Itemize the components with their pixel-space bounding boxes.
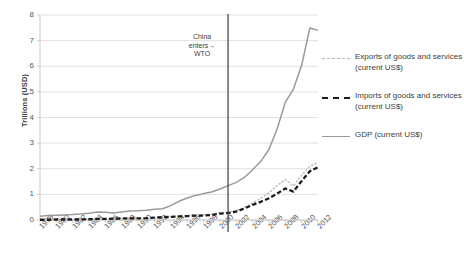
imports-dashed-swatch-line <box>322 97 350 99</box>
gdp-solid-swatch <box>322 131 350 143</box>
wto-annotation-line3: WTO <box>180 50 224 59</box>
legend-label-line1: Exports of goods and services <box>355 52 462 61</box>
wto-annotation: Chinaenters→WTO <box>180 33 224 59</box>
chart-container: Trillions (USD) 012345678 19781980198219… <box>0 0 468 259</box>
legend-label-line1: GDP (current US$) <box>355 130 422 139</box>
gdp-solid-swatch-line <box>322 136 350 137</box>
imports-dashed-swatch <box>322 92 350 104</box>
legend-item[interactable]: Exports of goods and services(current US… <box>322 52 468 73</box>
legend-item[interactable]: Imports of goods and services(current US… <box>322 91 468 112</box>
series-line-dotted <box>40 162 318 219</box>
legend-item-label: GDP (current US$) <box>355 130 422 141</box>
legend-item[interactable]: GDP (current US$) <box>322 130 468 143</box>
chart-legend: Exports of goods and services(current US… <box>322 52 468 161</box>
exports-dotted-swatch-line <box>322 58 350 59</box>
series-line-solid <box>40 28 318 216</box>
legend-label-line2: (current US$) <box>355 102 462 113</box>
series-line-dashed <box>40 167 318 220</box>
legend-item-label: Exports of goods and services(current US… <box>355 52 462 73</box>
legend-label-line2: (current US$) <box>355 63 462 74</box>
legend-item-label: Imports of goods and services(current US… <box>355 91 462 112</box>
wto-annotation-line2: enters→ <box>180 42 224 51</box>
wto-annotation-line1: China <box>180 33 224 42</box>
legend-label-line1: Imports of goods and services <box>355 91 462 100</box>
exports-dotted-swatch <box>322 53 350 65</box>
